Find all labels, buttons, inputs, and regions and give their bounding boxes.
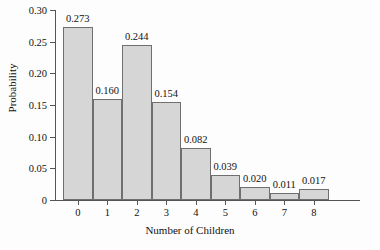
bar [270,193,300,200]
bar-value-label: 0.082 [184,134,208,145]
y-tick-label: 0 [42,195,47,206]
bar-value-label: 0.011 [273,179,296,190]
bar [240,187,270,200]
bar [152,102,182,200]
x-tick-label: 1 [105,207,110,218]
y-tick-label: 0.05 [29,163,47,174]
x-tick-label: 4 [193,207,198,218]
y-tick-mark [50,200,55,201]
y-tick-mark [50,105,55,106]
y-tick-label: 0.25 [29,36,47,47]
y-tick-label: 0.30 [29,5,47,16]
x-tick-mark [225,200,226,205]
y-tick-mark [50,73,55,74]
bar-value-label: 0.017 [302,175,326,186]
bar [211,175,241,200]
x-tick-mark [137,200,138,205]
y-tick-mark [50,42,55,43]
x-tick-label: 0 [75,207,80,218]
y-axis-title: Probability [6,43,18,133]
x-tick-label: 7 [282,207,287,218]
x-tick-mark [166,200,167,205]
y-tick-mark [50,10,55,11]
y-tick-label: 0.15 [29,100,47,111]
bar-value-label: 0.160 [95,85,119,96]
x-tick-label: 5 [223,207,228,218]
x-tick-mark [255,200,256,205]
y-axis-line [55,10,56,200]
bar [181,148,211,200]
bar-value-label: 0.273 [66,13,90,24]
x-axis-title: Number of Children [0,224,380,236]
x-axis-title-text: Number of Children [145,224,234,236]
bar-chart: 00.050.100.150.200.250.30 0.2730.1600.24… [0,0,380,250]
x-tick-mark [196,200,197,205]
bar-value-label: 0.020 [243,173,267,184]
bar-value-label: 0.039 [213,161,237,172]
bar-value-label: 0.154 [154,88,178,99]
x-tick-label: 8 [311,207,316,218]
x-tick-label: 2 [134,207,139,218]
x-tick-mark [107,200,108,205]
x-tick-mark [78,200,79,205]
y-tick-mark [50,137,55,138]
bar [63,27,93,200]
x-tick-mark [314,200,315,205]
y-tick-label: 0.20 [29,68,47,79]
bar [299,189,329,200]
y-tick-label: 0.10 [29,131,47,142]
chart-screenshot: 00.050.100.150.200.250.30 0.2730.1600.24… [0,0,380,250]
x-tick-mark [284,200,285,205]
y-tick-mark [50,168,55,169]
x-tick-label: 6 [252,207,257,218]
x-tick-label: 3 [164,207,169,218]
bar-value-label: 0.244 [125,31,149,42]
bar [122,45,152,200]
bar [93,99,123,200]
